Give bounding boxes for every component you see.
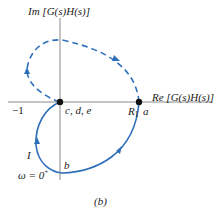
caption-text: (b) — [94, 195, 107, 207]
minus-one-tick-label: −1 — [12, 105, 24, 116]
imaginary-axis-label-text: Im [G(s)H(s)] — [28, 5, 90, 17]
r1-label: R1 — [128, 106, 139, 119]
real-axis-label: Re [G(s)H(s)] — [152, 92, 214, 103]
b-label: b — [64, 160, 70, 171]
a-label: a — [143, 106, 149, 117]
r1-subscript: 1 — [135, 110, 139, 119]
arrow-dashed-right-icon — [112, 55, 120, 61]
r1-main: R — [128, 105, 135, 117]
dashed-nyquist-curve — [27, 40, 139, 102]
arrow-solid-up-icon — [34, 137, 40, 144]
figure-caption: (b) — [94, 196, 107, 207]
origin-label: c, d, e — [65, 105, 91, 116]
origin-point — [57, 99, 63, 105]
omega-superscript: + — [44, 168, 48, 176]
i-label: I — [27, 150, 31, 161]
point-a — [136, 99, 142, 105]
nyquist-diagram: Im [G(s)H(s)] Re [G(s)H(s)] −1 c, d, e R… — [0, 0, 221, 211]
imaginary-axis-label: Im [G(s)H(s)] — [28, 6, 90, 17]
omega-text: ω = 0 — [18, 169, 44, 181]
arrow-dashed-up-icon — [24, 67, 30, 74]
omega-label: ω = 0+ — [18, 169, 48, 181]
